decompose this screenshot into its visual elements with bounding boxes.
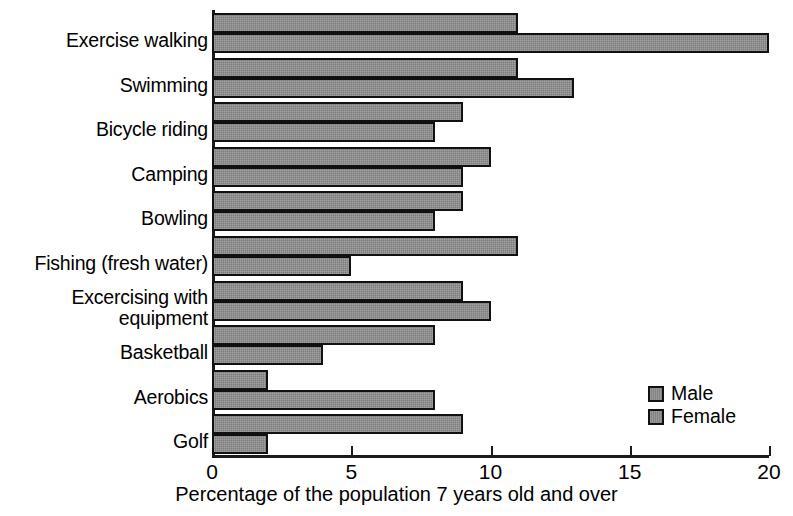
bar-female-8 bbox=[212, 390, 435, 410]
category-label-6: Excercising with equipment bbox=[71, 287, 208, 329]
bar-male-6 bbox=[212, 281, 463, 301]
bar-male-0 bbox=[212, 13, 518, 33]
bar-chart: Exercise walkingSwimmingBicycle ridingCa… bbox=[0, 0, 793, 516]
x-tick-label-0: 0 bbox=[206, 460, 218, 484]
bar-male-7 bbox=[212, 325, 435, 345]
legend-item-male: Male bbox=[648, 382, 736, 405]
x-tick-10 bbox=[491, 446, 493, 456]
category-label-4: Bowling bbox=[141, 208, 208, 229]
x-tick-label-10: 10 bbox=[479, 460, 502, 484]
bar-female-9 bbox=[212, 434, 268, 454]
bar-male-3 bbox=[212, 147, 491, 167]
bar-male-4 bbox=[212, 191, 463, 211]
bar-female-6 bbox=[212, 301, 491, 321]
legend-label-female: Female bbox=[671, 405, 736, 428]
x-tick-20 bbox=[769, 446, 771, 456]
x-tick-15 bbox=[630, 446, 632, 456]
bar-female-2 bbox=[212, 122, 435, 142]
x-tick-label-5: 5 bbox=[345, 460, 357, 484]
category-label-8: Aerobics bbox=[134, 387, 208, 408]
category-label-3: Camping bbox=[131, 164, 208, 185]
bar-male-1 bbox=[212, 58, 518, 78]
category-label-0: Exercise walking bbox=[66, 30, 208, 51]
bar-female-7 bbox=[212, 345, 323, 365]
category-label-7: Basketball bbox=[120, 342, 208, 363]
legend-item-female: Female bbox=[648, 405, 736, 428]
bar-female-1 bbox=[212, 78, 574, 98]
legend: MaleFemale bbox=[648, 382, 736, 428]
legend-swatch-icon-female bbox=[648, 409, 664, 425]
category-label-5: Fishing (fresh water) bbox=[34, 253, 208, 274]
x-tick-label-20: 20 bbox=[757, 460, 780, 484]
x-axis-title: Percentage of the population 7 years old… bbox=[0, 483, 793, 506]
bar-male-8 bbox=[212, 370, 268, 390]
bar-female-5 bbox=[212, 256, 351, 276]
bar-male-9 bbox=[212, 414, 463, 434]
category-label-2: Bicycle riding bbox=[96, 119, 208, 140]
category-label-1: Swimming bbox=[120, 75, 208, 96]
bar-female-4 bbox=[212, 211, 435, 231]
legend-label-male: Male bbox=[671, 382, 713, 405]
bar-male-5 bbox=[212, 236, 518, 256]
bar-male-2 bbox=[212, 102, 463, 122]
bar-female-0 bbox=[212, 33, 769, 53]
bar-female-3 bbox=[212, 167, 463, 187]
legend-swatch-icon-male bbox=[648, 386, 664, 402]
x-tick-5 bbox=[351, 446, 353, 456]
x-tick-label-15: 15 bbox=[618, 460, 641, 484]
category-label-9: Golf bbox=[173, 431, 208, 452]
